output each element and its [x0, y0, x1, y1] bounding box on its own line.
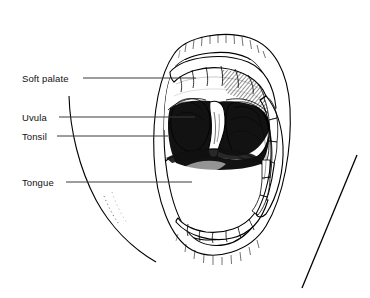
label-tongue-text: Tongue — [22, 177, 54, 188]
mouth-diagram-canvas: Soft palate Uvula Tonsil Tongue — [0, 0, 370, 298]
anatomy-figure: Soft palate Uvula Tonsil Tongue — [0, 0, 370, 298]
label-tonsil-text: Tonsil — [22, 131, 47, 142]
label-soft-palate-text: Soft palate — [22, 73, 69, 84]
label-uvula-text: Uvula — [22, 112, 47, 123]
